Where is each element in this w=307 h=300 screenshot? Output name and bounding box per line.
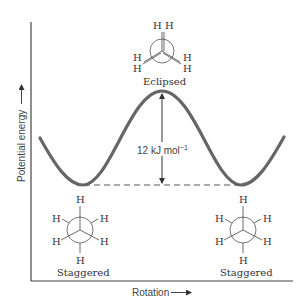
- y-axis-label: Potential energy: [16, 85, 27, 182]
- svg-text:H: H: [76, 194, 85, 205]
- svg-text:H: H: [263, 213, 272, 224]
- svg-text:H: H: [100, 236, 109, 247]
- svg-text:H: H: [52, 236, 61, 247]
- svg-text:H: H: [239, 255, 248, 266]
- svg-text:H: H: [133, 52, 142, 63]
- svg-text:H: H: [52, 213, 61, 224]
- svg-text:H: H: [133, 63, 142, 74]
- svg-text:H: H: [263, 236, 272, 247]
- svg-text:Rotation: Rotation: [132, 287, 169, 298]
- staggered-newman-projection-right: H H H H H H Staggered: [215, 194, 273, 278]
- eclipsed-newman-projection: H H H H H H Eclipsed: [133, 20, 192, 87]
- x-axis-label: Rotation: [132, 287, 191, 298]
- staggered-newman-projection-left: H H H H H H Staggered: [52, 194, 110, 278]
- svg-text:H: H: [239, 194, 248, 205]
- staggered-label-left: Staggered: [57, 267, 110, 278]
- svg-text:Potential energy: Potential energy: [16, 110, 27, 182]
- svg-text:H: H: [100, 213, 109, 224]
- svg-text:H: H: [76, 255, 85, 266]
- staggered-label-right: Staggered: [220, 267, 273, 278]
- svg-text:H H: H H: [153, 20, 174, 31]
- svg-text:H: H: [183, 63, 192, 74]
- eclipsed-label: Eclipsed: [143, 76, 187, 87]
- svg-text:H: H: [215, 236, 224, 247]
- svg-text:H: H: [215, 213, 224, 224]
- energy-diagram: Potential energy Rotation 12 kJ mol−1 H …: [0, 0, 307, 300]
- svg-text:H: H: [183, 52, 192, 63]
